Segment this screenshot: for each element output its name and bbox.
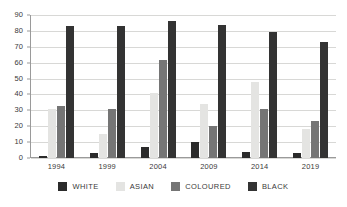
y-tick-label: 90: [14, 11, 23, 19]
legend-label: COLOURED: [185, 183, 231, 191]
bar-asian-1999[interactable]: [99, 134, 107, 158]
bar-white-1994[interactable]: [39, 156, 47, 158]
y-tick-label: 40: [14, 91, 23, 99]
bar-white-1999[interactable]: [90, 153, 98, 158]
bar-black-1994[interactable]: [66, 26, 74, 158]
y-tick-mark: [27, 126, 30, 127]
x-tick-label-1994: 1994: [31, 160, 82, 174]
y-tick-mark: [27, 15, 30, 16]
bar-black-2004[interactable]: [168, 21, 176, 158]
bar-white-2014[interactable]: [242, 152, 250, 158]
x-axis: 199419992004200920142019: [31, 160, 336, 174]
legend-swatch-icon: [248, 182, 257, 191]
bar-asian-1994[interactable]: [48, 109, 56, 158]
bar-coloured-2019[interactable]: [311, 121, 319, 158]
gridline: [31, 158, 336, 159]
legend-swatch-icon: [171, 182, 180, 191]
legend-swatch-icon: [58, 182, 67, 191]
bar-group-1994: [31, 15, 82, 158]
bar-black-2009[interactable]: [218, 25, 226, 158]
y-tick-label: 30: [14, 107, 23, 115]
y-tick-label: 20: [14, 122, 23, 130]
bar-black-1999[interactable]: [117, 26, 125, 158]
y-tick-label: 0: [19, 154, 23, 162]
bar-black-2014[interactable]: [269, 32, 277, 158]
legend-item-coloured[interactable]: COLOURED: [171, 182, 231, 191]
y-tick-label: 60: [14, 59, 23, 67]
grouped-bar-chart: 0102030405060708090 19941999200420092014…: [0, 0, 347, 207]
bar-asian-2009[interactable]: [200, 104, 208, 158]
bar-white-2019[interactable]: [293, 153, 301, 158]
x-tick-label-2009: 2009: [183, 160, 234, 174]
y-tick-mark: [27, 142, 30, 143]
bar-group-1999: [82, 15, 133, 158]
legend-label: ASIAN: [130, 183, 155, 191]
bar-coloured-1999[interactable]: [108, 109, 116, 158]
bar-group-2014: [234, 15, 285, 158]
chart-legend: WHITEASIANCOLOUREDBLACK: [0, 182, 347, 191]
bar-coloured-2004[interactable]: [159, 60, 167, 159]
legend-item-black[interactable]: BLACK: [248, 182, 289, 191]
y-tick-label: 70: [14, 43, 23, 51]
bar-black-2019[interactable]: [320, 42, 328, 158]
bar-asian-2014[interactable]: [251, 82, 259, 158]
x-tick-label-2004: 2004: [133, 160, 184, 174]
bar-coloured-1994[interactable]: [57, 106, 65, 158]
y-tick-label: 50: [14, 75, 23, 83]
bar-group-2019: [285, 15, 336, 158]
y-tick-mark: [27, 30, 30, 31]
bar-group-2009: [183, 15, 234, 158]
y-axis: 0102030405060708090: [0, 15, 27, 158]
bar-coloured-2014[interactable]: [260, 109, 268, 158]
legend-label: WHITE: [72, 183, 98, 191]
y-tick-mark: [27, 158, 30, 159]
y-tick-label: 80: [14, 27, 23, 35]
x-tick-label-1999: 1999: [82, 160, 133, 174]
legend-label: BLACK: [262, 183, 289, 191]
bar-coloured-2009[interactable]: [209, 126, 217, 158]
x-tick-label-2019: 2019: [285, 160, 336, 174]
y-tick-mark: [27, 46, 30, 47]
bar-asian-2004[interactable]: [150, 93, 158, 158]
legend-item-white[interactable]: WHITE: [58, 182, 98, 191]
bar-white-2004[interactable]: [141, 147, 149, 158]
y-tick-label: 10: [14, 138, 23, 146]
bar-group-2004: [133, 15, 184, 158]
y-tick-mark: [27, 110, 30, 111]
legend-swatch-icon: [116, 182, 125, 191]
legend-item-asian[interactable]: ASIAN: [116, 182, 155, 191]
bar-groups: [31, 15, 336, 158]
y-tick-mark: [27, 94, 30, 95]
x-tick-label-2014: 2014: [234, 160, 285, 174]
bar-white-2009[interactable]: [191, 142, 199, 158]
bar-asian-2019[interactable]: [302, 129, 310, 158]
y-tick-mark: [27, 62, 30, 63]
y-tick-mark: [27, 78, 30, 79]
